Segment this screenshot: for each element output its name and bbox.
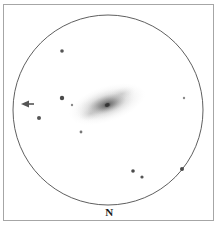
field-star	[180, 167, 184, 171]
field-star	[80, 131, 83, 134]
field-star	[37, 116, 41, 120]
field-star	[131, 169, 135, 173]
target-arrow-head	[21, 101, 29, 108]
target-arrow-icon	[21, 101, 34, 108]
field-star	[71, 104, 73, 106]
field-star	[183, 97, 185, 99]
field-star	[60, 49, 64, 53]
field-star	[140, 175, 143, 178]
north-orientation-label: N	[0, 206, 219, 218]
field-star	[60, 96, 64, 100]
field-of-view-canvas	[0, 0, 219, 228]
galaxy-object	[63, 75, 150, 134]
eyepiece-field-figure: N	[0, 0, 219, 228]
